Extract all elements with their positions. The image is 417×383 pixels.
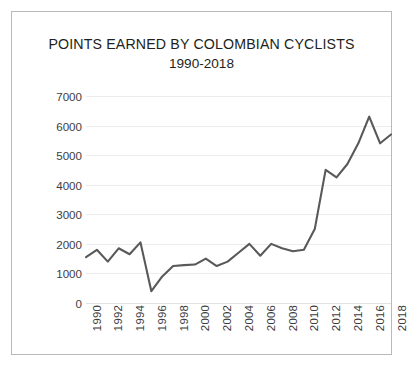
chart-figure-frame: POINTS EARNED BY COLOMBIAN CYCLISTS 1990… [11, 11, 392, 355]
chart-title: POINTS EARNED BY COLOMBIAN CYCLISTS [12, 34, 391, 54]
x-tick-label-1994: 1994 [134, 305, 146, 331]
y-tick-label-0: 0 [76, 297, 82, 310]
x-tick-label-1996: 1996 [156, 305, 168, 331]
x-tick-label-1992: 1992 [112, 305, 124, 331]
figure-caption [13, 370, 303, 381]
y-tick-label-3000: 3000 [56, 208, 82, 221]
x-tick-label-2006: 2006 [265, 305, 277, 331]
x-tick-label-1998: 1998 [178, 305, 190, 331]
x-tick-label-2008: 2008 [287, 305, 299, 331]
y-tick-label-7000: 7000 [56, 90, 82, 103]
x-tick-label-2018: 2018 [396, 305, 408, 331]
x-tick-label-2012: 2012 [330, 305, 342, 331]
y-axis-tick-labels: 01000200030004000500060007000 [32, 96, 82, 303]
y-tick-label-4000: 4000 [56, 178, 82, 191]
line-series-points-earned [86, 96, 391, 303]
x-tick-label-2010: 2010 [308, 305, 320, 331]
y-tick-label-2000: 2000 [56, 237, 82, 250]
x-tick-label-2014: 2014 [352, 305, 364, 331]
x-tick-label-2000: 2000 [199, 305, 211, 331]
y-tick-label-5000: 5000 [56, 149, 82, 162]
x-axis-tick-labels: 1990199219941996199820002002200420062008… [86, 305, 391, 357]
x-tick-label-1990: 1990 [91, 305, 103, 331]
chart-subtitle: 1990-2018 [12, 54, 391, 74]
x-tick-label-2004: 2004 [243, 305, 255, 331]
y-tick-label-6000: 6000 [56, 119, 82, 132]
y-tick-label-1000: 1000 [56, 267, 82, 280]
gridline-0 [86, 303, 391, 304]
x-tick-label-2002: 2002 [221, 305, 233, 331]
chart-title-block: POINTS EARNED BY COLOMBIAN CYCLISTS 1990… [12, 34, 391, 74]
plot-area [86, 96, 391, 303]
x-tick-label-2016: 2016 [374, 305, 386, 331]
